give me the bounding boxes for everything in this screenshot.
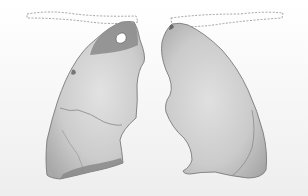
left-lung <box>162 23 267 178</box>
lungs-illustration <box>0 0 308 196</box>
figure <box>0 0 308 196</box>
